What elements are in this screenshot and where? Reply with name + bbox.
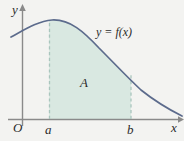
y-axis-label: y <box>12 3 18 16</box>
y-axis-arrowhead <box>19 4 26 11</box>
x-axis-arrowhead <box>178 116 184 123</box>
diagram-svg <box>0 0 184 141</box>
x-axis-label: x <box>171 121 177 134</box>
origin-label: O <box>13 121 22 134</box>
figure-canvas: y x O a b A y = f(x) <box>0 0 184 141</box>
curve-label: y = f(x) <box>96 26 132 38</box>
tick-label-a: a <box>45 123 52 136</box>
tick-label-b: b <box>127 123 134 136</box>
area-label: A <box>80 76 88 89</box>
